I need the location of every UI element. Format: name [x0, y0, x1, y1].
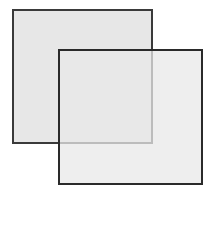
front-square: [58, 49, 203, 185]
